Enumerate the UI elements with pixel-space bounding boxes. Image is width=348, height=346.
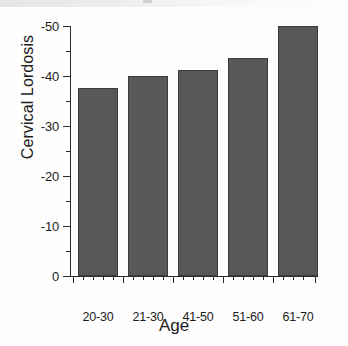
y-tick-major: [63, 276, 70, 277]
bar-51-60: [228, 58, 268, 276]
y-tick-major: [63, 176, 70, 177]
bar-20-30: [78, 88, 118, 276]
x-tick-minor: [183, 276, 184, 280]
y-tick-minor: [66, 51, 70, 52]
x-tick-minor: [303, 276, 304, 280]
y-tick-label: -50: [41, 19, 59, 34]
y-tick-label: -30: [41, 119, 59, 134]
y-tick-minor: [66, 251, 70, 252]
y-axis-line: [70, 26, 71, 276]
chart-figure: -50 -40 -30 -20 -10 0: [0, 0, 348, 346]
y-tick-label: 0: [52, 269, 59, 284]
x-tick-minor: [213, 276, 214, 280]
x-tick-minor: [253, 276, 254, 280]
x-tick-minor: [93, 276, 94, 280]
y-tick-label: -20: [41, 169, 59, 184]
bar-21-30: [128, 76, 168, 276]
x-tick-major: [315, 276, 316, 283]
y-tick-major: [63, 226, 70, 227]
y-axis-title: Cervical Lordosis: [19, 0, 37, 197]
x-tick-minor: [153, 276, 154, 280]
x-tick-minor: [193, 276, 194, 280]
x-tick-major: [273, 276, 274, 283]
x-tick-minor: [233, 276, 234, 280]
x-tick-minor: [143, 276, 144, 280]
x-tick-minor: [83, 276, 84, 280]
y-tick-label: -10: [41, 219, 59, 234]
x-tick-minor: [163, 276, 164, 280]
y-tick-major: [63, 126, 70, 127]
y-tick-minor: [66, 151, 70, 152]
x-tick-minor: [243, 276, 244, 280]
plot-area: -50 -40 -30 -20 -10 0: [70, 26, 318, 276]
x-tick-minor: [133, 276, 134, 280]
y-tick-minor: [66, 101, 70, 102]
bar-61-70: [278, 26, 318, 276]
y-tick-minor: [66, 201, 70, 202]
x-tick-minor: [103, 276, 104, 280]
y-tick-major: [63, 26, 70, 27]
y-tick-label: -40: [41, 69, 59, 84]
x-tick-major: [223, 276, 224, 283]
x-tick-major: [123, 276, 124, 283]
x-axis-title: Age: [0, 316, 348, 336]
x-tick-minor: [263, 276, 264, 280]
bar-41-50: [178, 70, 218, 276]
x-tick-major: [173, 276, 174, 283]
x-tick-minor: [283, 276, 284, 280]
y-tick-major: [63, 76, 70, 77]
x-tick-minor: [293, 276, 294, 280]
scan-artifact-mark: [143, 0, 152, 3]
x-tick-minor: [203, 276, 204, 280]
x-tick-minor: [113, 276, 114, 280]
scan-artifact-band: [0, 0, 348, 7]
x-tick-major: [73, 276, 74, 283]
